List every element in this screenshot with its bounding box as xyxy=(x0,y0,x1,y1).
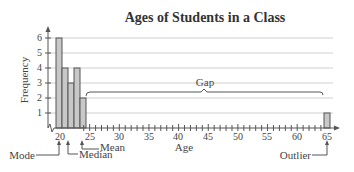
axis-break-icon xyxy=(48,124,54,132)
svg-text:50: 50 xyxy=(233,131,243,142)
mean-arrow-icon xyxy=(80,140,84,145)
chart-title: Ages of Students in a Class xyxy=(125,10,286,25)
y-axis-label: Frequency xyxy=(18,56,30,103)
svg-text:6: 6 xyxy=(37,32,42,43)
svg-text:35: 35 xyxy=(144,131,154,142)
svg-text:20: 20 xyxy=(55,131,65,142)
y-axis-arrow-icon xyxy=(46,26,51,32)
svg-text:25: 25 xyxy=(85,131,95,142)
y-axis: 6 5 4 3 2 1 Frequency xyxy=(18,26,51,128)
mode-label: Mode xyxy=(9,149,35,161)
svg-text:2: 2 xyxy=(37,92,42,103)
svg-text:4: 4 xyxy=(37,62,42,73)
gap-label: Gap xyxy=(196,76,215,88)
x-axis-arrow-icon xyxy=(334,126,340,131)
outlier-label: Outlier xyxy=(280,149,311,161)
bar-22 xyxy=(74,68,80,128)
bar-65 xyxy=(324,113,330,128)
bar-19 xyxy=(56,38,62,128)
gridlines xyxy=(48,38,333,113)
bar-23 xyxy=(80,98,86,128)
svg-text:1: 1 xyxy=(37,107,42,118)
svg-text:60: 60 xyxy=(292,131,302,142)
mean-label: Mean xyxy=(100,141,126,153)
gap-brace xyxy=(86,89,323,96)
chart-canvas: Ages of Students in a Class 6 5 4 3 2 1 … xyxy=(0,0,354,172)
bar-21 xyxy=(68,83,74,128)
svg-text:55: 55 xyxy=(262,131,272,142)
x-axis-label: Age xyxy=(175,141,193,153)
median-arrow-icon xyxy=(66,140,70,145)
svg-text:45: 45 xyxy=(203,131,213,142)
svg-text:5: 5 xyxy=(37,47,42,58)
svg-text:3: 3 xyxy=(37,77,42,88)
bar-20 xyxy=(62,68,68,128)
